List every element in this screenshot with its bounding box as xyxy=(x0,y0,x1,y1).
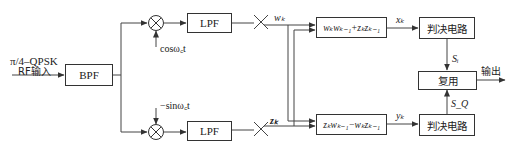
decision-top-label: 判决电路 xyxy=(427,21,467,36)
lpf-top-block: LPF xyxy=(187,13,232,33)
input-label-line2: RF输入 xyxy=(18,66,51,78)
bpf-label: BPF xyxy=(79,69,99,81)
formula-top-label: wₖwₖ₋₁+zₖzₖ₋₁ xyxy=(323,22,379,33)
s-i-label: Sᵢ xyxy=(452,53,459,65)
formula-bottom-block: zₖwₖ₋₁−wₖzₖ₋₁ xyxy=(316,114,387,135)
mux-block: 复用 xyxy=(418,71,477,90)
z-k-label: zₖ xyxy=(270,115,278,127)
mixer-top-icon xyxy=(149,16,164,31)
decision-top-block: 判决电路 xyxy=(419,17,475,39)
lpf-bottom-label: LPF xyxy=(200,125,219,137)
output-label: 输出 xyxy=(481,66,501,78)
bpf-block: BPF xyxy=(65,64,113,86)
decision-bottom-block: 判决电路 xyxy=(419,114,475,136)
w-k-label: wₖ xyxy=(274,12,285,24)
mixer-bottom-icon xyxy=(149,125,164,140)
lpf-bottom-block: LPF xyxy=(187,121,232,141)
carrier-cos-label: cosω꜀t xyxy=(160,43,186,55)
lpf-top-label: LPF xyxy=(200,17,219,29)
decision-bottom-label: 判决电路 xyxy=(427,118,467,133)
s-q-label: S_Q xyxy=(451,98,468,110)
formula-bottom-label: zₖwₖ₋₁−wₖzₖ₋₁ xyxy=(323,119,379,130)
carrier-sin-label: −sinω꜀t xyxy=(160,100,190,112)
formula-top-block: wₖwₖ₋₁+zₖzₖ₋₁ xyxy=(316,17,387,38)
mux-label: 复用 xyxy=(438,73,458,88)
x-k-label: xₖ xyxy=(396,14,404,26)
y-k-label: yₖ xyxy=(396,110,404,122)
